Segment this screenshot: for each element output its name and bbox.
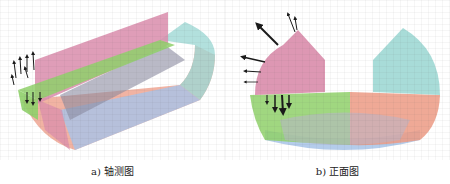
front-mesh-model: [225, 0, 450, 160]
panel-front-view: b) 正面图: [225, 0, 450, 184]
axonometric-mesh-model: [0, 0, 225, 160]
caption-axonometric: a) 轴测图: [0, 163, 225, 178]
caption-front: b) 正面图: [225, 163, 450, 178]
panel-axonometric-view: a) 轴测图: [0, 0, 225, 184]
